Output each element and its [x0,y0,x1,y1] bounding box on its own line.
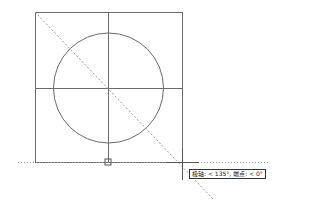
tracking-tooltip: 极轴: < 135°, 端点: < 0° [189,169,266,179]
polar-tracking-line [35,12,213,199]
